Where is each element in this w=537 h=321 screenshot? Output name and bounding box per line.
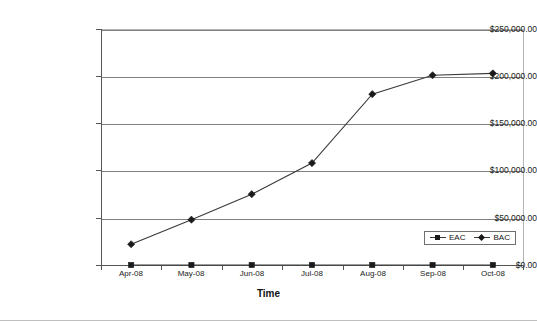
y-axis-line [101,29,102,266]
legend-label-eac: EAC [449,234,465,242]
x-tick-label-jul-08: Jul-08 [282,270,342,278]
x-tick-label-sep-08: Sep-08 [403,270,463,278]
y-tick-mark-250000 [96,29,101,30]
legend-label-bac: BAC [493,234,509,242]
x-tick-label-jun-08: Jun-08 [222,270,282,278]
x-tick-label-aug-08: Aug-08 [343,270,403,278]
x-tick-label-may-08: May-08 [161,270,221,278]
y-tick-mark-200000 [96,76,101,77]
y-tick-mark-150000 [96,123,101,124]
x-tick-label-oct-08: Oct-08 [463,270,523,278]
chart-legend: EAC BAC [424,231,516,245]
y-tick-label-100000: $100,000.00 [445,166,537,175]
y-tick-label-150000: $150,000.00 [445,119,537,128]
x-axis-title: Time [0,288,537,299]
y-tick-label-50000: $50,000.00 [445,214,537,223]
y-tick-mark-50000 [96,218,101,219]
legend-diamond-marker-icon [474,234,490,242]
y-tick-mark-100000 [96,170,101,171]
legend-entry-eac: EAC [430,234,465,242]
x-tick-label-apr-08: Apr-08 [101,270,161,278]
y-tick-label-250000: $250,000.00 [445,25,537,34]
legend-entry-bac: BAC [474,234,509,242]
y-tick-label-200000: $200,000.00 [445,72,537,81]
x-tick-mark-7 [523,265,524,270]
chart-container: $250,000.00 $200,000.00 $150,000.00 $100… [0,0,537,321]
legend-square-marker-icon [430,234,446,242]
